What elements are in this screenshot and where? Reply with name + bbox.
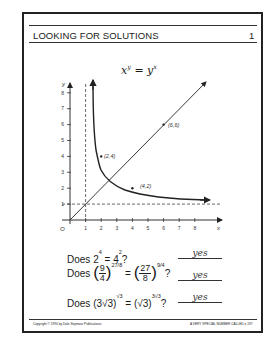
label-6-6: (6,6) bbox=[168, 122, 179, 128]
q2-frac1: 94 bbox=[99, 264, 106, 283]
q3-base2: (√3) bbox=[134, 298, 152, 309]
answer-2: yes bbox=[178, 270, 222, 281]
q2-equals: = bbox=[125, 268, 131, 279]
svg-text:6: 6 bbox=[162, 225, 165, 231]
svg-text:4: 4 bbox=[131, 225, 134, 231]
svg-text:3: 3 bbox=[115, 225, 118, 231]
point-2-4 bbox=[100, 155, 102, 157]
answer-1: yes bbox=[178, 248, 222, 259]
point-6-6 bbox=[162, 123, 164, 125]
svg-text:8: 8 bbox=[61, 90, 64, 96]
svg-text:8: 8 bbox=[193, 225, 196, 231]
svg-text:2: 2 bbox=[61, 185, 64, 191]
svg-text:5: 5 bbox=[61, 137, 64, 143]
svg-text:4: 4 bbox=[61, 153, 64, 159]
point-4-2 bbox=[131, 187, 133, 189]
x-axis-label: x bbox=[216, 225, 221, 231]
svg-text:7: 7 bbox=[178, 225, 181, 231]
svg-text:7: 7 bbox=[61, 105, 64, 111]
footer-page-info: A VERY SPECIAL NUMBER CALLED e 197 bbox=[190, 322, 252, 326]
svg-text:1: 1 bbox=[84, 225, 87, 231]
q1-exp1: 4 bbox=[99, 249, 102, 255]
answer-3: yes bbox=[178, 292, 222, 303]
x-tick-labels: 12 34 56 78 bbox=[84, 225, 196, 231]
question-2: Does (94)27/8 = (278)9/4? bbox=[67, 262, 170, 283]
q3-equals: = bbox=[125, 298, 131, 309]
footer-rule bbox=[29, 319, 257, 320]
y-axis-label: y bbox=[61, 81, 66, 87]
q3-base1: (3√3) bbox=[93, 298, 116, 309]
svg-text:3: 3 bbox=[61, 169, 64, 175]
question-3: Does (3√3)√3 = (√3)3√3? bbox=[67, 293, 166, 309]
y-tick-labels: 12 34 56 78 bbox=[61, 90, 64, 207]
q2-exp2: 9/4 bbox=[157, 262, 165, 268]
q3-prefix: Does bbox=[67, 298, 90, 309]
q3-qmark: ? bbox=[161, 298, 167, 309]
q3-exp1: √3 bbox=[116, 293, 122, 299]
svg-text:6: 6 bbox=[61, 121, 64, 127]
q2-qmark: ? bbox=[165, 268, 171, 279]
svg-text:2: 2 bbox=[100, 225, 103, 231]
q2-frac2: 278 bbox=[139, 264, 151, 283]
svg-text:5: 5 bbox=[147, 225, 150, 231]
footer-copyright: Copyright © 1990 by Dale Seymour Publica… bbox=[33, 322, 101, 326]
label-4-2: (4,2) bbox=[140, 183, 151, 189]
q2-exp1: 27/8 bbox=[112, 262, 123, 268]
q2-prefix: Does bbox=[67, 268, 90, 279]
label-2-4: (2,4) bbox=[104, 153, 115, 159]
origin-label: O bbox=[60, 226, 65, 232]
q3-exp2: 3√3 bbox=[152, 293, 161, 299]
